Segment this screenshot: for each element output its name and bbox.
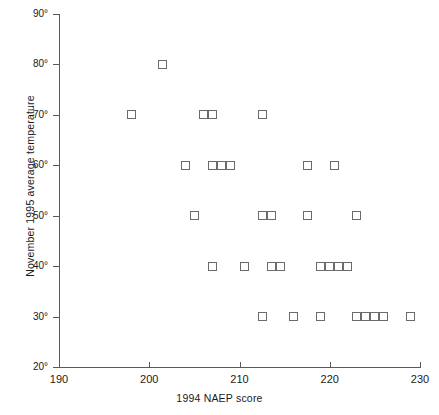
data-point[interactable] [190, 211, 199, 220]
y-tick-mark [53, 266, 59, 267]
data-point[interactable] [208, 161, 217, 170]
y-tick-mark [53, 115, 59, 116]
x-tick-label: 230 [400, 373, 439, 385]
y-axis-line [59, 14, 60, 368]
y-tick-label: 30° [6, 312, 48, 322]
data-point[interactable] [208, 262, 217, 271]
data-point[interactable] [267, 262, 276, 271]
x-tick-mark [240, 362, 241, 368]
x-tick-mark [420, 362, 421, 368]
y-tick-mark [53, 64, 59, 65]
data-point[interactable] [240, 262, 249, 271]
data-point[interactable] [361, 312, 370, 321]
y-tick-mark [53, 165, 59, 166]
data-point[interactable] [316, 262, 325, 271]
scatter-plot: 20°30°40°50°60°70°80°90° 190200210220230… [0, 0, 439, 415]
data-point[interactable] [370, 312, 379, 321]
y-tick-label: 90° [6, 9, 48, 19]
data-point[interactable] [325, 262, 334, 271]
data-point[interactable] [208, 110, 217, 119]
data-point[interactable] [258, 312, 267, 321]
x-tick-label: 190 [39, 373, 79, 385]
data-point[interactable] [289, 312, 298, 321]
x-tick-label: 210 [220, 373, 260, 385]
data-point[interactable] [258, 211, 267, 220]
data-point[interactable] [226, 161, 235, 170]
data-point[interactable] [334, 262, 343, 271]
data-point[interactable] [127, 110, 136, 119]
y-tick-mark [53, 216, 59, 217]
x-axis-title: 1994 NAEP score [0, 392, 439, 404]
y-tick-label: 20° [6, 362, 48, 372]
data-point[interactable] [217, 161, 226, 170]
x-tick-label: 200 [129, 373, 169, 385]
data-point[interactable] [258, 110, 267, 119]
y-tick-label: 80° [6, 59, 48, 69]
data-point[interactable] [276, 262, 285, 271]
data-point[interactable] [303, 161, 312, 170]
y-axis-title: November 1995 average temperature [24, 71, 36, 301]
data-point[interactable] [343, 262, 352, 271]
data-point[interactable] [303, 211, 312, 220]
data-point[interactable] [316, 312, 325, 321]
data-point[interactable] [267, 211, 276, 220]
y-tick-mark [53, 14, 59, 15]
data-point[interactable] [406, 312, 415, 321]
data-point[interactable] [330, 161, 339, 170]
plot-area [0, 0, 439, 415]
x-tick-mark [149, 362, 150, 368]
y-tick-mark [53, 317, 59, 318]
data-point[interactable] [158, 60, 167, 69]
data-point[interactable] [379, 312, 388, 321]
x-tick-mark [59, 362, 60, 368]
data-point[interactable] [352, 211, 361, 220]
data-point[interactable] [352, 312, 361, 321]
x-tick-label: 220 [310, 373, 350, 385]
data-point[interactable] [199, 110, 208, 119]
x-tick-mark [330, 362, 331, 368]
data-point[interactable] [181, 161, 190, 170]
